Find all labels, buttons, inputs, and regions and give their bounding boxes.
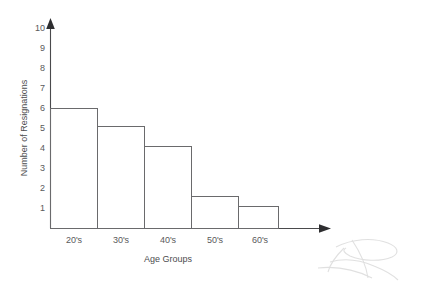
bar-30s xyxy=(98,127,145,229)
y-tick-label-3: 3 xyxy=(40,163,45,173)
x-axis-arrow-icon xyxy=(319,224,331,233)
y-tick-label-9: 9 xyxy=(40,43,45,53)
y-axis-title: Number of Resignations xyxy=(19,79,29,176)
bar-60s xyxy=(239,207,279,229)
x-tick-label-40s: 40's xyxy=(160,235,177,245)
y-tick-label-1: 1 xyxy=(40,203,45,213)
histogram-figure: 10 9 8 7 6 5 4 3 2 1 20's 30's 40's 50's… xyxy=(0,0,423,297)
y-tick-label-5: 5 xyxy=(40,123,45,133)
chart-canvas: 10 9 8 7 6 5 4 3 2 1 20's 30's 40's 50's… xyxy=(0,0,423,297)
x-tick-label-30s: 30's xyxy=(113,235,130,245)
bars-group xyxy=(51,109,279,229)
y-tick-label-6: 6 xyxy=(40,103,45,113)
bar-50s xyxy=(192,197,239,229)
x-tick-label-60s: 60's xyxy=(252,235,269,245)
y-tick-label-7: 7 xyxy=(40,83,45,93)
bar-40s xyxy=(145,147,192,229)
bar-20s xyxy=(51,109,98,229)
y-tick-label-2: 2 xyxy=(40,183,45,193)
x-tick-label-20s: 20's xyxy=(66,235,83,245)
x-tick-label-50s: 50's xyxy=(207,235,224,245)
x-axis-title: Age Groups xyxy=(144,254,193,264)
y-axis-arrow-icon xyxy=(46,18,55,29)
y-tick-label-8: 8 xyxy=(40,63,45,73)
y-tick-label-4: 4 xyxy=(40,143,45,153)
scan-artifact xyxy=(318,240,398,280)
y-tick-label-10: 10 xyxy=(35,23,45,33)
